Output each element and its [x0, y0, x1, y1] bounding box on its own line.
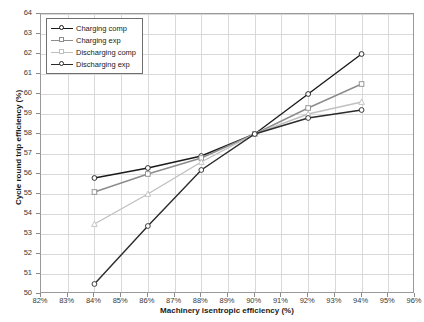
- legend-swatch-icon: [51, 35, 73, 45]
- y-axis-title: Cycle round trip efficiency (%): [14, 68, 23, 228]
- legend-item-label: Discharging comp: [76, 48, 136, 57]
- data-point-marker: [359, 52, 364, 57]
- data-point-marker: [199, 168, 204, 173]
- y-tick-label: 51: [0, 268, 32, 277]
- y-tick-mark: [36, 133, 40, 134]
- data-point-marker: [359, 82, 364, 87]
- y-tick-mark: [36, 293, 40, 294]
- y-tick-label: 53: [0, 228, 32, 237]
- series-group: [92, 108, 364, 287]
- data-point-marker: [252, 132, 257, 137]
- data-point-marker: [306, 92, 311, 97]
- x-tick-label: 96%: [394, 296, 424, 305]
- y-tick-mark: [36, 13, 40, 14]
- y-tick-mark: [36, 233, 40, 234]
- data-point-marker: [92, 282, 97, 287]
- y-tick-mark: [36, 53, 40, 54]
- x-tick-mark: [387, 293, 388, 297]
- legend-item-label: Charging exp: [76, 36, 121, 45]
- x-tick-mark: [280, 293, 281, 297]
- y-tick-mark: [36, 113, 40, 114]
- legend-item: Charging exp: [51, 34, 136, 46]
- x-tick-mark: [227, 293, 228, 297]
- legend-item-label: Discharging exp: [76, 60, 130, 69]
- series-line: [94, 110, 361, 284]
- plot-area: Charging compCharging expDischarging com…: [40, 13, 414, 293]
- y-tick-label: 64: [0, 8, 32, 17]
- x-tick-mark: [147, 293, 148, 297]
- y-tick-mark: [36, 213, 40, 214]
- x-tick-mark: [307, 293, 308, 297]
- data-point-marker: [92, 176, 97, 181]
- data-point-marker: [306, 116, 311, 121]
- y-tick-mark: [36, 193, 40, 194]
- legend-swatch-icon: [51, 47, 73, 57]
- x-tick-mark: [120, 293, 121, 297]
- data-point-marker: [145, 224, 150, 229]
- series-line: [94, 84, 361, 192]
- y-tick-label: 52: [0, 248, 32, 257]
- data-point-marker: [145, 191, 151, 196]
- legend-item: Discharging exp: [51, 58, 136, 70]
- y-tick-mark: [36, 153, 40, 154]
- y-tick-mark: [36, 273, 40, 274]
- y-tick-mark: [36, 93, 40, 94]
- x-axis-title: Machinery isentropic efficiency (%): [40, 306, 414, 315]
- x-tick-mark: [254, 293, 255, 297]
- data-point-marker: [145, 166, 150, 171]
- y-tick-mark: [36, 73, 40, 74]
- series-group: [92, 99, 365, 226]
- legend-swatch-icon: [51, 23, 73, 33]
- series-line: [94, 102, 361, 224]
- data-point-marker: [146, 172, 151, 177]
- x-tick-mark: [40, 293, 41, 297]
- legend-swatch-icon: [51, 59, 73, 69]
- x-tick-mark: [361, 293, 362, 297]
- y-tick-label: 63: [0, 28, 32, 37]
- x-tick-mark: [93, 293, 94, 297]
- data-point-marker: [359, 108, 364, 113]
- data-point-marker: [92, 221, 98, 226]
- x-tick-mark: [414, 293, 415, 297]
- legend-item: Discharging comp: [51, 46, 136, 58]
- chart-legend: Charging compCharging expDischarging com…: [46, 18, 143, 74]
- series-group: [92, 82, 364, 195]
- x-tick-mark: [200, 293, 201, 297]
- x-tick-mark: [174, 293, 175, 297]
- y-tick-mark: [36, 253, 40, 254]
- y-tick-label: 50: [0, 288, 32, 297]
- legend-item-label: Charging comp: [76, 24, 127, 33]
- legend-item: Charging comp: [51, 22, 136, 34]
- x-tick-mark: [334, 293, 335, 297]
- y-tick-mark: [36, 33, 40, 34]
- chart-container: Charging compCharging expDischarging com…: [0, 0, 424, 322]
- y-tick-label: 62: [0, 48, 32, 57]
- x-tick-mark: [67, 293, 68, 297]
- y-tick-mark: [36, 173, 40, 174]
- data-point-marker: [92, 190, 97, 195]
- data-point-marker: [306, 106, 311, 111]
